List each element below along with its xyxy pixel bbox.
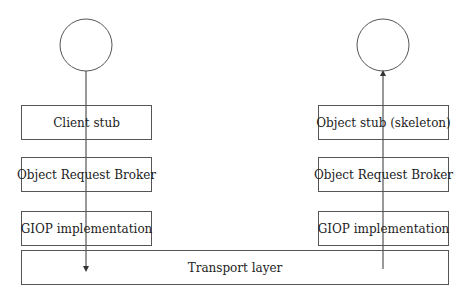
server-orb-label: Object Request Broker — [314, 168, 453, 182]
server-giop-box: GIOP implementation — [318, 211, 449, 246]
corba-architecture-diagram: Client stub Object Request Broker GIOP i… — [0, 0, 466, 301]
server-endpoint-circle — [357, 19, 409, 71]
client-giop-label: GIOP implementation — [21, 222, 153, 236]
server-giop-label: GIOP implementation — [318, 222, 450, 236]
client-orb-box: Object Request Broker — [21, 157, 152, 192]
object-stub-box: Object stub (skeleton) — [318, 105, 449, 140]
client-endpoint-circle — [60, 19, 112, 71]
transport-layer-label: Transport layer — [188, 261, 283, 275]
client-stub-box: Client stub — [21, 105, 152, 140]
client-orb-label: Object Request Broker — [17, 168, 156, 182]
object-stub-label: Object stub (skeleton) — [316, 116, 451, 130]
transport-layer-box: Transport layer — [21, 250, 449, 285]
client-giop-box: GIOP implementation — [21, 211, 152, 246]
server-orb-box: Object Request Broker — [318, 157, 449, 192]
client-stub-label: Client stub — [53, 116, 120, 130]
